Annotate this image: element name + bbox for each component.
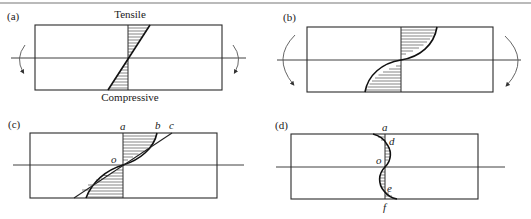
point-a-c: a (120, 120, 126, 132)
point-b-c: b (155, 119, 161, 131)
stress-line-a (108, 25, 150, 90)
point-d-d: d (389, 135, 395, 147)
panel-d-label: (d) (275, 119, 288, 132)
moment-arrow-right-a (233, 45, 239, 72)
point-o-c: o (111, 153, 117, 165)
panel-a-label: (a) (7, 10, 20, 23)
moment-arrow-right-b (505, 36, 518, 85)
panel-c: (c) a b c o (8, 118, 244, 198)
point-c-c: c (169, 119, 174, 131)
moment-arrow-left-b (283, 35, 295, 84)
panel-b-label: (b) (283, 11, 296, 24)
panel-b: (b) (277, 11, 521, 92)
tensile-label: Tensile (114, 8, 146, 20)
point-o-d: o (376, 154, 382, 166)
point-f-d: f (383, 201, 388, 213)
residual-stress-figure: (a) Tensile Compressive (0, 0, 531, 219)
panel-d: (d) a d o e f (275, 119, 505, 213)
compressive-label: Compressive (101, 91, 159, 103)
moment-arrow-left-a (19, 45, 25, 72)
point-a-d: a (382, 121, 388, 133)
panel-c-label: (c) (8, 118, 21, 131)
point-e-d: e (387, 182, 392, 194)
panel-a: (a) Tensile Compressive (7, 8, 246, 103)
